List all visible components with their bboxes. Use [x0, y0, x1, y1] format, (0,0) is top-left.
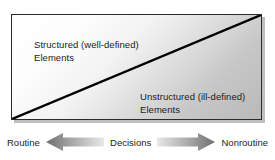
unstructured-region-label: Unstructured (ill-defined) Elements [140, 91, 245, 116]
arrow-left-icon [46, 133, 104, 151]
axis-label-routine: Routine [7, 137, 40, 148]
decision-structure-diagram: Structured (well-defined) Elements Unstr… [0, 0, 275, 160]
arrow-right-icon [157, 133, 215, 151]
decisions-axis: Routine Decisions Nonrou [0, 129, 275, 155]
matrix-box: Structured (well-defined) Elements Unstr… [11, 14, 262, 120]
axis-label-decisions: Decisions [110, 137, 151, 148]
structured-region-label: Structured (well-defined) Elements [34, 39, 139, 64]
axis-label-nonroutine: Nonroutine [222, 137, 268, 148]
